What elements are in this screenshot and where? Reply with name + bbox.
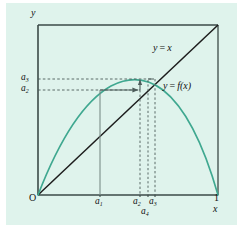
x-axis-label: x — [213, 204, 217, 214]
x-max-label: 1 — [214, 193, 219, 203]
identity-rhs: x — [167, 42, 171, 53]
y-axis-label: y — [31, 8, 35, 18]
identity-line — [38, 25, 218, 195]
horizontal-guides — [38, 79, 152, 90]
x-tick-label-a4: a4 — [141, 207, 149, 217]
cobweb-path — [100, 79, 154, 195]
x-tick-sub-a1: 1 — [100, 201, 103, 207]
function-curve-annotation: y = f(x) — [163, 81, 191, 91]
x-tick-label-a2: a2 — [133, 197, 141, 207]
x-tick-sub-a4: 4 — [146, 211, 149, 217]
y-tick-sub-a3: 3 — [26, 77, 29, 83]
y-tick-label-a2: a2 — [21, 84, 29, 94]
x-tick-label-a1: a1 — [95, 197, 103, 207]
figure-root: y x O 1 a3 a2 a1 a2 a3 a4 y = x y = f(x) — [0, 0, 243, 231]
x-tick-sub-a3: 3 — [154, 201, 157, 207]
function-rhs: f(x) — [177, 80, 191, 91]
y-tick-label-a3: a3 — [21, 73, 29, 83]
identity-line-annotation: y = x — [153, 43, 172, 53]
x-tick-label-a3: a3 — [149, 197, 157, 207]
function-curve — [38, 80, 218, 195]
origin-label: O — [29, 193, 36, 203]
y-tick-sub-a2: 2 — [26, 88, 29, 94]
cobweb-plot — [0, 0, 243, 231]
